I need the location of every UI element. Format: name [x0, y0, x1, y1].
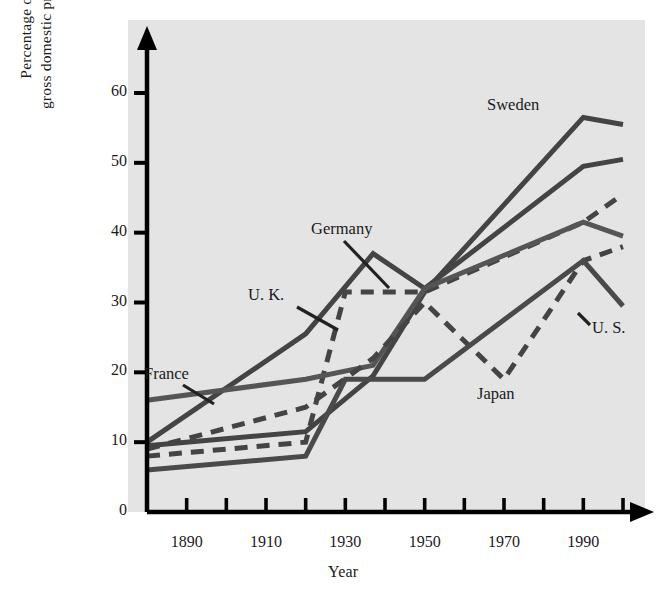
y-tick-label: 10	[81, 431, 127, 449]
series-label-sweden: Sweden	[487, 95, 539, 115]
y-tick-label: 40	[81, 222, 127, 240]
series-label-japan: Japan	[477, 384, 515, 404]
leader-line-us	[578, 313, 590, 325]
y-tick-label: 30	[81, 292, 127, 310]
x-tick-label: 1910	[232, 533, 300, 551]
y-axis-title-line2: gross domestic product	[37, 0, 54, 109]
y-tick-label: 20	[81, 361, 127, 379]
y-tick-label: 60	[81, 82, 127, 100]
x-tick-label: 1890	[153, 533, 221, 551]
x-tick-label: 1970	[470, 533, 538, 551]
y-axis-arrowhead	[137, 26, 157, 50]
series-line-germany	[147, 159, 623, 442]
x-axis-title: Year	[328, 563, 358, 581]
series-label-germany: Germany	[311, 219, 372, 239]
x-tick-label: 1930	[311, 533, 379, 551]
x-axis-arrowhead	[630, 502, 654, 522]
y-axis-title: Percentage of gross domestic product	[16, 0, 56, 150]
y-axis-title-line1: Percentage of	[17, 0, 34, 79]
series-label-france: France	[144, 364, 189, 384]
x-tick-label: 1990	[549, 533, 617, 551]
leader-line-uk	[297, 307, 338, 330]
series-label-u-s: U. S.	[592, 318, 625, 338]
series-label-u-k: U. K.	[248, 285, 284, 305]
chart-figure: Percentage of gross domestic product Yea…	[0, 0, 670, 599]
x-tick-label: 1950	[391, 533, 459, 551]
series-layer	[147, 117, 623, 470]
y-tick-label: 50	[81, 152, 127, 170]
y-tick-label: 0	[81, 501, 127, 519]
